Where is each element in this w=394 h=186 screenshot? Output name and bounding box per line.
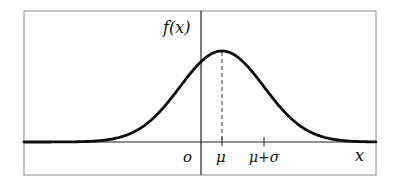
density-curve — [24, 51, 376, 142]
x-axis-label: x — [355, 146, 364, 165]
mu-plus-sigma-label: μ+σ — [249, 149, 280, 165]
figure-frame — [24, 11, 376, 175]
mu-label: μ — [216, 148, 226, 166]
origin-label: o — [183, 148, 192, 166]
y-axis-label: f(x) — [162, 18, 190, 37]
normal-distribution-diagram: f(x) o μ μ+σ x — [0, 0, 394, 186]
